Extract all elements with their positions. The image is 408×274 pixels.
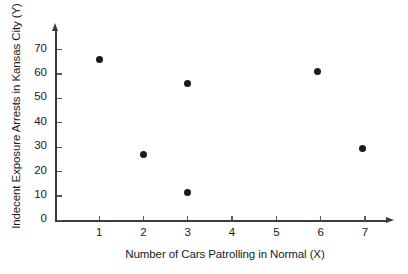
x-tick-mark	[320, 216, 321, 221]
y-tick-mark	[57, 49, 62, 50]
y-tick-mark	[57, 122, 62, 123]
x-tick-label: 2	[134, 226, 154, 238]
y-tick-mark	[57, 73, 62, 74]
x-tick-label: 7	[355, 226, 375, 238]
x-tick-mark	[187, 216, 188, 221]
data-point	[96, 56, 103, 63]
y-axis-arrow-icon	[52, 23, 58, 31]
x-tick-label: 3	[178, 226, 198, 238]
scatter-plot-figure: Indecent Exposure Arrests in Kansas City…	[0, 0, 408, 274]
y-tick-mark	[57, 195, 62, 196]
y-tick-label: 20	[34, 164, 47, 176]
data-point	[184, 80, 191, 87]
x-axis-arrow-icon	[386, 217, 394, 223]
x-tick-mark	[231, 216, 232, 221]
y-tick-label: 10	[34, 188, 47, 200]
data-point	[314, 68, 321, 75]
y-tick-label: 70	[34, 42, 47, 54]
x-tick-mark	[364, 216, 365, 221]
y-axis-title: Indecent Exposure Arrests in Kansas City…	[4, 0, 28, 236]
x-tick-mark	[276, 216, 277, 221]
y-tick-label: 0	[41, 212, 47, 224]
y-tick-mark	[57, 220, 62, 221]
y-tick-label: 40	[34, 115, 47, 127]
x-tick-mark	[143, 216, 144, 221]
y-tick-label: 50	[34, 90, 47, 102]
y-tick-label: 60	[34, 66, 47, 78]
y-tick-label: 30	[34, 139, 47, 151]
x-tick-label: 5	[266, 226, 286, 238]
x-tick-mark	[99, 216, 100, 221]
x-tick-label: 6	[311, 226, 331, 238]
data-point	[140, 151, 147, 158]
x-tick-label: 1	[89, 226, 109, 238]
x-axis-line	[55, 220, 388, 222]
data-point	[359, 145, 366, 152]
plot-area: 010203040506070 1234567	[55, 30, 395, 222]
y-axis-line	[55, 30, 57, 222]
y-tick-mark	[57, 147, 62, 148]
y-tick-mark	[57, 171, 62, 172]
y-tick-mark	[57, 98, 62, 99]
x-tick-label: 4	[222, 226, 242, 238]
x-axis-title: Number of Cars Patrolling in Normal (X)	[55, 248, 395, 260]
data-point	[184, 189, 191, 196]
